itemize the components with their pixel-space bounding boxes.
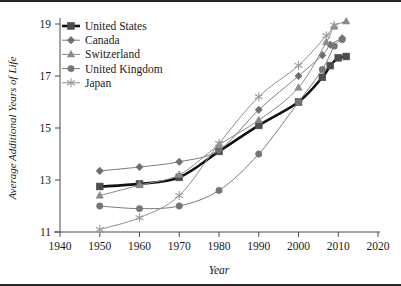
data-point-triangle <box>255 116 262 123</box>
y-axis-title: Average Additional Years of Life <box>6 56 18 200</box>
data-point-square <box>68 23 75 30</box>
data-point-circle <box>216 187 222 193</box>
x-tick-label: 2000 <box>287 240 310 252</box>
legend-label: United States <box>85 20 147 32</box>
data-point-asterisk <box>96 225 104 234</box>
x-tick-label: 2020 <box>367 240 390 252</box>
data-point-triangle <box>343 17 350 24</box>
y-tick-label: 15 <box>40 122 52 134</box>
data-point-circle <box>68 65 74 71</box>
legend-label: Japan <box>85 77 111 90</box>
data-point-square <box>319 74 326 81</box>
data-point-diamond <box>176 158 183 166</box>
data-point-circle <box>331 43 337 49</box>
chart-figure: 1113151719194019501960197019801990200020… <box>0 0 401 286</box>
x-tick-label: 1940 <box>49 240 72 252</box>
data-point-square <box>96 183 103 190</box>
series-switzerland <box>96 17 350 198</box>
y-tick-label: 19 <box>40 18 52 30</box>
y-tick-label: 17 <box>40 70 52 82</box>
legend-label: Canada <box>85 34 119 46</box>
data-point-circle <box>256 151 262 157</box>
legend-item-switzerland[interactable]: Switzerland <box>62 48 140 60</box>
x-tick-label: 2010 <box>327 240 350 252</box>
data-point-circle <box>295 99 301 105</box>
legend-label: United Kingdom <box>85 63 163 76</box>
line-chart-canvas: 1113151719194019501960197019801990200020… <box>0 2 401 286</box>
x-tick-label: 1960 <box>128 240 151 252</box>
data-point-diamond <box>67 36 74 44</box>
x-tick-label: 1980 <box>208 240 231 252</box>
data-point-circle <box>136 205 142 211</box>
data-point-circle <box>319 66 325 72</box>
y-tick-label: 13 <box>40 174 52 186</box>
data-point-asterisk <box>136 213 144 222</box>
x-tick-label: 1990 <box>247 240 270 252</box>
legend-item-canada[interactable]: Canada <box>62 34 119 46</box>
y-tick-label: 11 <box>40 226 51 238</box>
legend-item-united-kingdom[interactable]: United Kingdom <box>62 63 163 76</box>
data-point-square <box>327 62 334 69</box>
legend-label: Switzerland <box>85 48 140 60</box>
legend-item-united-states[interactable]: United States <box>62 20 147 32</box>
x-tick-label: 1970 <box>168 240 191 252</box>
legend-item-japan[interactable]: Japan <box>62 77 111 90</box>
data-point-diamond <box>136 163 143 171</box>
x-tick-label: 1950 <box>88 240 111 252</box>
data-point-square <box>335 54 342 61</box>
x-axis-title: Year <box>209 264 230 276</box>
data-point-circle <box>339 36 345 42</box>
data-point-diamond <box>96 167 103 175</box>
data-point-square <box>343 53 350 60</box>
data-point-circle <box>176 203 182 209</box>
data-point-circle <box>97 203 103 209</box>
data-point-triangle <box>67 50 74 57</box>
